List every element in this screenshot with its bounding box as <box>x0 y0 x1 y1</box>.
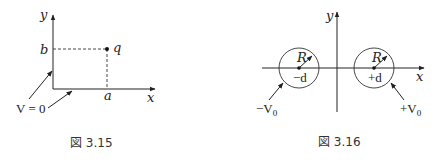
figure-3-16: y x R −d −V0 R +d +V0 図 3.16 <box>256 8 424 149</box>
right-cylinder: R +d +V0 <box>354 48 422 118</box>
boundary-label: V = 0 <box>16 101 46 116</box>
x-tick-label: a <box>104 88 112 103</box>
y-tick-label: b <box>40 42 48 57</box>
charge-point <box>105 47 109 51</box>
point-label: q <box>113 40 121 55</box>
arrow-to-x-axis <box>48 91 72 108</box>
right-center-label: +d <box>368 70 382 85</box>
left-potential-label: −V0 <box>256 101 278 118</box>
figure-3-15: y x b a q V = 0 図 3.15 <box>16 7 155 150</box>
right-potential-arrow <box>391 83 404 100</box>
right-potential-label: +V0 <box>400 101 422 118</box>
y-axis-label: y <box>325 8 334 23</box>
arrow-to-y-axis <box>29 71 52 99</box>
caption-3-16: 図 3.16 <box>318 135 361 149</box>
x-axis-label: x <box>416 69 424 84</box>
left-center-label: −d <box>293 70 307 85</box>
left-radius-label: R <box>296 50 307 65</box>
x-axis-label: x <box>147 90 155 105</box>
left-cylinder: R −d −V0 <box>256 48 319 118</box>
caption-3-15: 図 3.15 <box>70 136 113 150</box>
diagram-canvas: y x b a q V = 0 図 3.15 y x R −d −V0 <box>0 0 440 160</box>
left-potential-arrow <box>269 83 283 100</box>
y-axis-label: y <box>39 7 48 22</box>
right-radius-label: R <box>371 50 382 65</box>
